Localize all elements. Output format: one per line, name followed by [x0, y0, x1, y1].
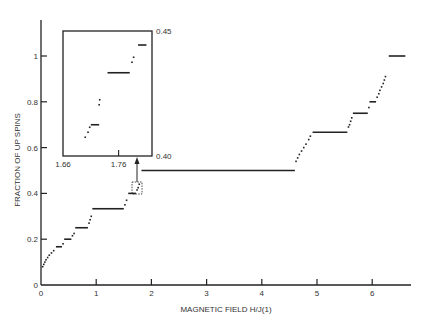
- data-point: [384, 79, 386, 81]
- data-point: [378, 93, 380, 95]
- data-point: [73, 233, 75, 235]
- data-point: [45, 259, 47, 261]
- y-tick-label: 0.2: [27, 235, 39, 244]
- data-point: [295, 161, 297, 163]
- inset-data-point: [99, 99, 101, 101]
- x-tick-label: 1: [94, 289, 99, 298]
- data-point: [62, 243, 64, 245]
- data-point: [137, 187, 139, 189]
- data-point: [53, 250, 55, 252]
- data-point: [349, 124, 351, 126]
- data-point: [90, 216, 92, 218]
- data-point: [376, 96, 378, 98]
- data-point: [44, 261, 46, 263]
- data-point: [42, 266, 44, 268]
- inset-data-point: [133, 56, 135, 58]
- inset-data-point: [84, 136, 86, 138]
- inset-x-tick-label: 1.66: [55, 160, 71, 169]
- data-point: [124, 204, 126, 206]
- inset-frame: [63, 31, 152, 156]
- data-point: [88, 222, 90, 224]
- inset-plot: 1.661.760.400.45: [55, 27, 172, 194]
- data-point: [301, 150, 303, 152]
- data-point: [305, 143, 307, 145]
- data-point: [48, 254, 50, 256]
- data-point: [89, 219, 91, 221]
- x-tick-label: 5: [315, 289, 320, 298]
- data-point: [382, 83, 384, 85]
- data-point: [385, 76, 387, 78]
- y-tick-label: 0.8: [27, 98, 39, 107]
- data-point: [381, 86, 383, 88]
- inset-data-point: [87, 131, 89, 133]
- data-point: [310, 135, 312, 137]
- inset-x-tick-label: 1.76: [111, 160, 127, 169]
- data-point: [136, 189, 138, 191]
- x-tick-label: 6: [370, 289, 375, 298]
- x-tick-label: 3: [204, 289, 209, 298]
- data-point: [348, 126, 350, 128]
- inset-y-tick-label: 0.45: [156, 27, 172, 36]
- y-tick-label: 0: [34, 281, 39, 290]
- zoom-region-box: [132, 182, 142, 194]
- y-axis-title: FRACTION OF UP SPINS: [13, 113, 22, 207]
- x-axis-title: MAGNETIC FIELD H/J(1): [180, 305, 271, 314]
- data-point: [303, 147, 305, 149]
- inset-y-tick-label: 0.40: [156, 152, 172, 161]
- y-tick-label: 1: [34, 52, 39, 61]
- data-point: [368, 107, 370, 109]
- plot-area: 012345600.20.40.60.81 1.661.760.400.45 M…: [0, 0, 421, 331]
- data-point: [308, 139, 310, 141]
- inset-data-point: [89, 126, 91, 128]
- x-tick-label: 0: [39, 289, 44, 298]
- data-point: [43, 264, 45, 266]
- data-point: [379, 90, 381, 92]
- data-point: [47, 257, 49, 259]
- data-point: [297, 157, 299, 159]
- data-point: [51, 252, 53, 254]
- inset-data-point: [98, 104, 100, 106]
- arrow-up-icon: [135, 157, 140, 164]
- data-point: [138, 183, 140, 185]
- data-point: [350, 120, 352, 122]
- data-point: [351, 117, 353, 119]
- inset-data-point: [131, 61, 133, 63]
- data-point: [72, 235, 74, 237]
- x-tick-label: 2: [149, 289, 154, 298]
- data-point: [126, 199, 128, 201]
- data-point: [299, 154, 301, 156]
- y-tick-label: 0.6: [27, 144, 39, 153]
- x-tick-label: 4: [260, 289, 265, 298]
- y-tick-label: 0.4: [27, 189, 39, 198]
